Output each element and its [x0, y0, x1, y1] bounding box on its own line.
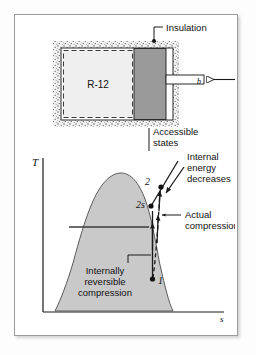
internal-energy-label-line3: decreases [187, 173, 231, 184]
piston-cylinder-device: R-12 b Insulation [53, 22, 235, 128]
figure-svg: R-12 b Insulation T [15, 15, 235, 333]
ts-diagram: T s 1 [32, 126, 235, 324]
actual-compression-label-line1: Actual [185, 209, 211, 220]
actual-compression-arrow-upper [159, 191, 160, 211]
internally-reversible-label-line3: compression [78, 287, 132, 298]
work-symbol: b [197, 77, 201, 86]
figure-container: R-12 b Insulation T [0, 0, 256, 355]
actual-compression-label-line2: compression [185, 220, 235, 231]
figure-frame: R-12 b Insulation T [14, 14, 238, 336]
internal-energy-label-line2: energy [187, 162, 216, 173]
internally-reversible-label-line1: Internally [86, 265, 125, 276]
state-label-2: 2 [145, 176, 150, 187]
insulation-label: Insulation [166, 22, 207, 33]
state-point-2 [158, 184, 163, 189]
internal-energy-arrow [166, 167, 184, 193]
accessible-states-line [151, 161, 178, 206]
state-point-1 [150, 276, 155, 281]
state-point-2s [148, 203, 153, 208]
substance-label: R-12 [87, 79, 109, 90]
state-label-2s: 2s [136, 199, 145, 210]
accessible-states-label-line1: Accessible [153, 126, 198, 137]
actual-compression-arrow-lower [157, 215, 158, 243]
x-axis-label: s [220, 314, 224, 324]
accessible-states-label-line2: states [153, 137, 179, 148]
internal-energy-label-line1: Internal [187, 151, 219, 162]
piston [134, 49, 166, 120]
insulation-anchor-dot [152, 39, 156, 43]
y-axis-label: T [32, 156, 39, 168]
state-label-1: 1 [158, 275, 163, 286]
internally-reversible-label-line2: reversible [84, 276, 125, 287]
